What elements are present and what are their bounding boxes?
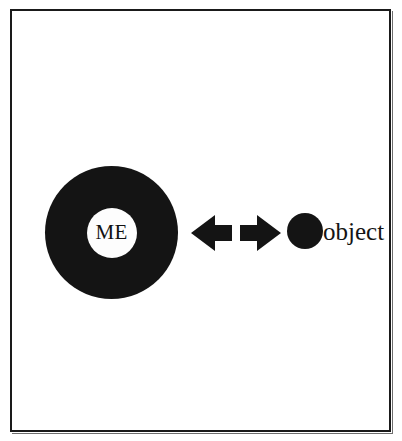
- arrow-left-icon: [191, 215, 232, 251]
- figure-canvas: ME object: [0, 0, 402, 441]
- bidirectional-arrows: [191, 213, 281, 253]
- object-node: object: [287, 209, 384, 253]
- self-node-core: ME: [87, 208, 137, 258]
- object-node-label: object: [323, 219, 384, 244]
- arrow-right-icon: [240, 215, 281, 251]
- self-node: ME: [45, 166, 178, 299]
- object-node-dot: [287, 213, 323, 249]
- self-node-label: ME: [95, 222, 127, 243]
- outer-border: ME object: [10, 9, 391, 432]
